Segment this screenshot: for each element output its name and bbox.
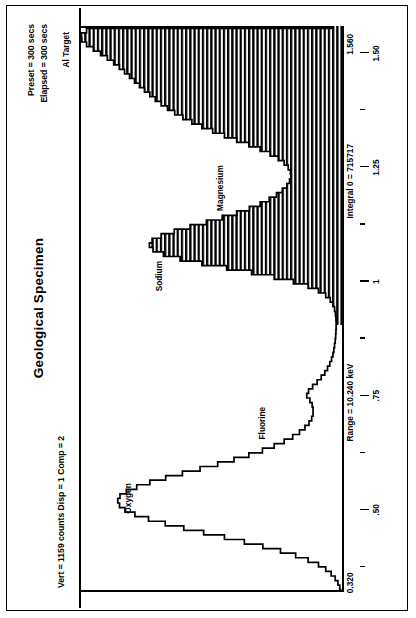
spectrum-trace: [80, 26, 342, 592]
axis-tick-major: [360, 280, 369, 281]
header-band: Geological Specimen Vert = 1159 counts D…: [9, 8, 79, 608]
timing-status: Preset = 300 secs Elapsed = 300 secs: [25, 24, 50, 103]
start-energy-label: 0.320: [345, 572, 355, 593]
peak-label-fluorine: Fluorine: [257, 407, 267, 440]
peak-label-sodium: Sodium: [154, 261, 164, 291]
axis-tick-minor: [360, 566, 365, 567]
axis-tick-label: .75: [371, 390, 381, 402]
acquisition-status: Vert = 1159 counts Disp = 1 Comp = 2: [56, 436, 66, 588]
energy-axis: .50.7511.251.50: [360, 8, 405, 608]
axis-ticks: .50.7511.251.50: [360, 26, 370, 592]
range-label: Range = 10.240 keV: [345, 364, 355, 442]
axis-tick-major: [360, 509, 369, 510]
plot-baseline: [342, 26, 344, 592]
axis-tick-major: [360, 166, 369, 167]
axis-tick-label: 1: [371, 279, 381, 284]
preset-time: Preset = 300 secs: [25, 24, 38, 103]
end-energy-label: 1.560: [345, 34, 355, 55]
axis-tick-label: 1.25: [371, 159, 381, 175]
spectrum-plot[interactable]: Oxygen Fluorine Sodium Magnesium Al Targ…: [80, 8, 360, 608]
axis-tick-major: [360, 395, 369, 396]
axis-tick-major: [360, 52, 369, 53]
peak-label-al-target: Al Target: [61, 32, 71, 67]
peak-label-magnesium: Magnesium: [215, 165, 225, 211]
axis-tick-minor: [360, 337, 365, 338]
elapsed-time: Elapsed = 300 secs: [38, 24, 51, 103]
axis-tick-label: .50: [371, 504, 381, 516]
axis-tick-minor: [360, 452, 365, 453]
axis-tick-minor: [360, 223, 365, 224]
printout-page: Geological Specimen Vert = 1159 counts D…: [0, 0, 416, 618]
peak-label-oxygen: Oxygen: [123, 483, 133, 513]
footer-annotations: 0.320 Range = 10.240 keV Integral 0 = 71…: [345, 8, 359, 608]
spectrum-plate: Geological Specimen Vert = 1159 counts D…: [9, 8, 405, 608]
rotated-canvas: Geological Specimen Vert = 1159 counts D…: [9, 8, 405, 608]
page-border: Geological Specimen Vert = 1159 counts D…: [6, 5, 408, 611]
axis-tick-minor: [360, 109, 365, 110]
axis-tick-label: 1.50: [371, 45, 381, 61]
integral-label: Integral 0 = 715717: [345, 144, 355, 219]
